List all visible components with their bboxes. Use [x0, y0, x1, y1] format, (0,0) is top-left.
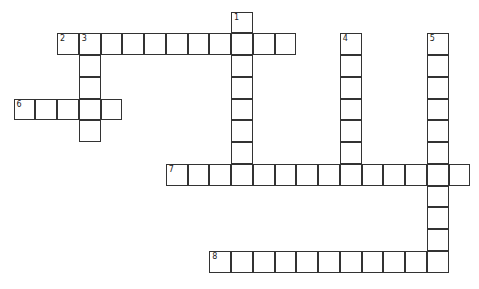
- crossword-cell[interactable]: 5: [427, 33, 449, 55]
- crossword-cell[interactable]: [231, 77, 253, 99]
- crossword-cell[interactable]: [231, 33, 253, 55]
- crossword-cell[interactable]: [383, 251, 405, 273]
- crossword-cell[interactable]: [427, 120, 449, 142]
- clue-number: 6: [17, 100, 22, 109]
- crossword-cell[interactable]: [427, 142, 449, 164]
- crossword-cell[interactable]: [79, 77, 101, 99]
- crossword-grid: 12345678: [0, 0, 479, 289]
- crossword-cell[interactable]: [340, 142, 362, 164]
- crossword-cell[interactable]: [188, 33, 210, 55]
- crossword-cell[interactable]: [231, 99, 253, 121]
- crossword-cell[interactable]: 7: [166, 164, 188, 186]
- crossword-cell[interactable]: [362, 251, 384, 273]
- crossword-cell[interactable]: [383, 164, 405, 186]
- clue-number: 8: [212, 252, 217, 261]
- crossword-cell[interactable]: [122, 33, 144, 55]
- crossword-cell[interactable]: [275, 33, 297, 55]
- crossword-cell[interactable]: [427, 229, 449, 251]
- crossword-cell[interactable]: [231, 120, 253, 142]
- crossword-cell[interactable]: [427, 55, 449, 77]
- crossword-cell[interactable]: [57, 99, 79, 121]
- crossword-cell[interactable]: [253, 164, 275, 186]
- crossword-cell[interactable]: [166, 33, 188, 55]
- crossword-cell[interactable]: [405, 164, 427, 186]
- crossword-cell[interactable]: [340, 251, 362, 273]
- clue-number: 2: [60, 34, 65, 43]
- crossword-cell[interactable]: 8: [209, 251, 231, 273]
- crossword-cell[interactable]: [362, 164, 384, 186]
- crossword-cell[interactable]: [231, 251, 253, 273]
- crossword-cell[interactable]: [427, 164, 449, 186]
- crossword-cell[interactable]: 1: [231, 12, 253, 34]
- crossword-cell[interactable]: [318, 164, 340, 186]
- crossword-cell[interactable]: [340, 164, 362, 186]
- crossword-cell[interactable]: [253, 33, 275, 55]
- crossword-cell[interactable]: [296, 251, 318, 273]
- crossword-cell[interactable]: [79, 99, 101, 121]
- crossword-cell[interactable]: [231, 142, 253, 164]
- crossword-cell[interactable]: [188, 164, 210, 186]
- crossword-cell[interactable]: [340, 99, 362, 121]
- crossword-cell[interactable]: [427, 251, 449, 273]
- crossword-cell[interactable]: [209, 164, 231, 186]
- clue-number: 1: [234, 13, 239, 22]
- crossword-cell[interactable]: [101, 99, 123, 121]
- crossword-cell[interactable]: [231, 55, 253, 77]
- crossword-cell[interactable]: 2: [57, 33, 79, 55]
- crossword-cell[interactable]: [427, 99, 449, 121]
- crossword-cell[interactable]: [209, 33, 231, 55]
- crossword-cell[interactable]: [79, 55, 101, 77]
- crossword-cell[interactable]: 6: [14, 99, 36, 121]
- crossword-cell[interactable]: [79, 120, 101, 142]
- crossword-cell[interactable]: 4: [340, 33, 362, 55]
- crossword-cell[interactable]: [101, 33, 123, 55]
- crossword-cell[interactable]: [231, 164, 253, 186]
- clue-number: 4: [343, 34, 348, 43]
- clue-number: 3: [82, 34, 87, 43]
- clue-number: 7: [169, 165, 174, 174]
- crossword-cell[interactable]: [253, 251, 275, 273]
- crossword-cell[interactable]: [275, 251, 297, 273]
- crossword-cell[interactable]: [427, 77, 449, 99]
- crossword-cell[interactable]: [275, 164, 297, 186]
- crossword-cell[interactable]: [296, 164, 318, 186]
- crossword-cell[interactable]: [405, 251, 427, 273]
- crossword-cell[interactable]: [427, 207, 449, 229]
- crossword-cell[interactable]: [318, 251, 340, 273]
- crossword-cell[interactable]: 3: [79, 33, 101, 55]
- crossword-cell[interactable]: [449, 164, 471, 186]
- crossword-cell[interactable]: [340, 120, 362, 142]
- crossword-cell[interactable]: [144, 33, 166, 55]
- clue-number: 5: [430, 34, 435, 43]
- crossword-cell[interactable]: [427, 186, 449, 208]
- crossword-cell[interactable]: [340, 55, 362, 77]
- crossword-cell[interactable]: [340, 77, 362, 99]
- crossword-cell[interactable]: [35, 99, 57, 121]
